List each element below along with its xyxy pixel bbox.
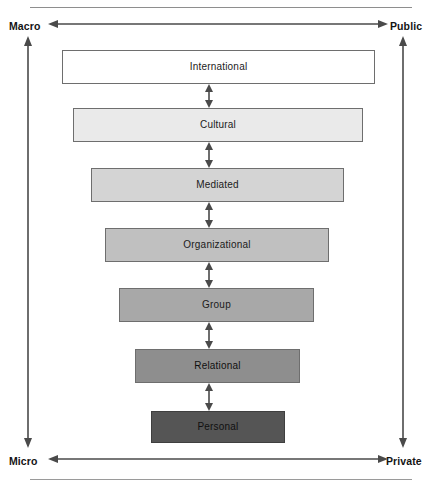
funnel-level-group: Group [119, 288, 314, 322]
funnel-level-international: International [62, 50, 375, 84]
connector-arrow-2 [203, 202, 215, 228]
funnel-level-label: Relational [194, 360, 240, 372]
funnel-level-mediated: Mediated [91, 168, 344, 202]
figure-top-rule [30, 7, 412, 8]
funnel-level-label: Personal [197, 421, 238, 433]
funnel-level-relational: Relational [135, 349, 300, 383]
connector-arrow-4 [203, 322, 215, 349]
funnel-level-organizational: Organizational [105, 228, 329, 262]
axis-label-macro: Macro [9, 20, 40, 32]
funnel-level-label: International [190, 61, 248, 73]
funnel-level-personal: Personal [151, 411, 285, 443]
axis-arrow-public-private [397, 36, 409, 448]
axis-arrow-macro-public [48, 18, 388, 30]
axis-arrow-macro-micro [22, 36, 34, 448]
funnel-level-label: Mediated [196, 179, 239, 191]
axis-label-private: Private [386, 455, 422, 467]
connector-arrow-3 [203, 262, 215, 288]
connector-arrow-5 [203, 383, 215, 411]
funnel-level-label: Cultural [200, 119, 236, 131]
funnel-level-label: Group [202, 299, 231, 311]
axis-label-micro: Micro [9, 455, 38, 467]
axis-label-public: Public [390, 20, 422, 32]
funnel-level-cultural: Cultural [73, 108, 363, 142]
connector-arrow-1 [203, 142, 215, 168]
funnel-level-label: Organizational [183, 239, 250, 251]
connector-arrow-0 [203, 84, 215, 108]
axis-arrow-micro-private [48, 453, 388, 465]
figure-container: Macro Public Micro Private International… [0, 0, 442, 498]
figure-bottom-rule [30, 479, 412, 480]
